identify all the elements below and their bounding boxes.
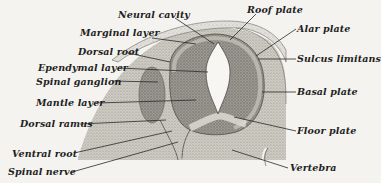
label-ventral-root: Ventral root [12,148,77,159]
spinal-ganglion-shape [139,67,165,123]
label-dorsal-ramus: Dorsal ramus [20,118,93,129]
label-dorsal-root: Dorsal root [78,46,139,57]
label-ependymal-layer: Ependymal layer [38,62,128,73]
label-mantle-layer: Mantle layer [36,97,104,108]
label-vertebra: Vertebra [290,162,337,173]
label-roof-plate: Roof plate [247,4,303,15]
label-neural-cavity: Neural cavity [118,9,190,20]
label-spinal-ganglion: Spinal ganglion [36,76,121,87]
label-sulcus-limitans: Sulcus limitans [297,53,381,64]
label-floor-plate: Floor plate [297,125,356,136]
label-marginal-layer: Marginal layer [80,27,160,38]
label-spinal-nerve: Spinal nerve [8,166,76,177]
label-basal-plate: Basal plate [297,86,358,97]
label-alar-plate: Alar plate [297,23,350,34]
